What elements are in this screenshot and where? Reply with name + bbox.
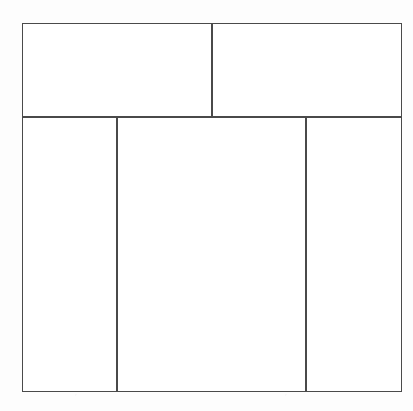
divider-vertical-right — [305, 116, 307, 392]
cell-bottom-left[interactable] — [22, 116, 116, 392]
cell-bottom-center[interactable] — [116, 116, 305, 392]
divider-horizontal-main — [22, 116, 402, 118]
cell-top-right[interactable] — [211, 23, 402, 116]
cell-bottom-right[interactable] — [305, 116, 402, 392]
diagram-canvas — [0, 0, 413, 411]
divider-vertical-left — [116, 116, 118, 392]
divider-vertical-top — [211, 23, 213, 116]
cell-top-left[interactable] — [22, 23, 211, 116]
